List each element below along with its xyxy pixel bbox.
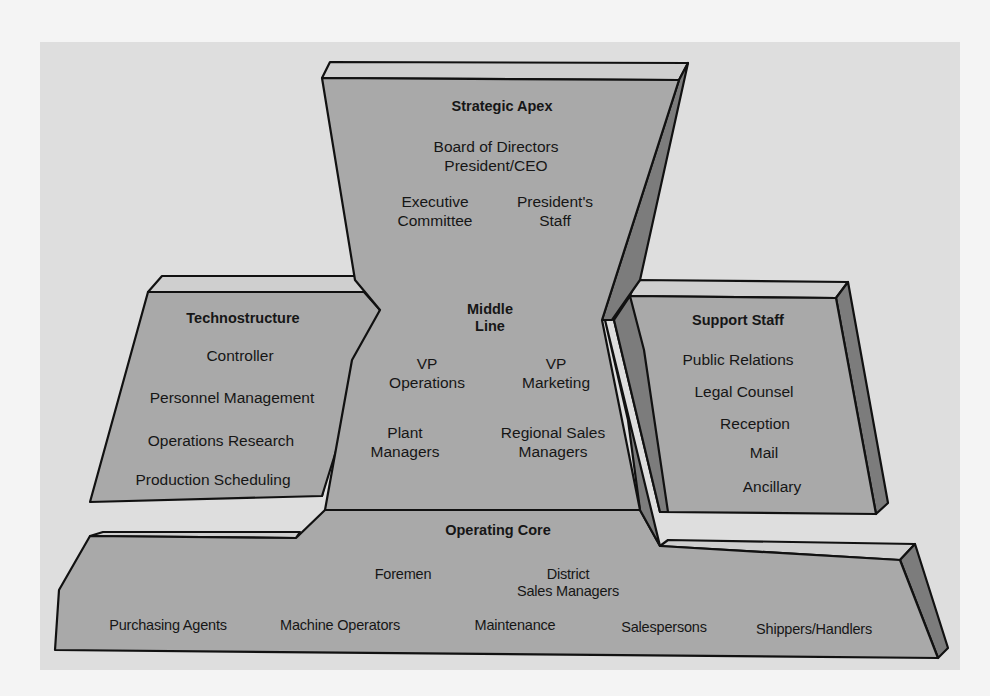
support-staff-item: Legal Counsel (694, 383, 793, 402)
support-staff-item: Public Relations (682, 351, 793, 370)
operating-core-item: Machine Operators (280, 617, 400, 634)
vp-operations-label: VP Operations (389, 355, 465, 392)
operating-core-title: Operating Core (445, 522, 551, 539)
foremen-label: Foremen (375, 566, 432, 583)
organization-structure-diagram: Strategic Apex Board of Directors Presid… (0, 0, 990, 696)
technostructure-item: Production Scheduling (135, 471, 290, 490)
operating-core-item: Salespersons (621, 619, 706, 636)
board-president-label: Board of Directors President/CEO (434, 138, 559, 175)
strategic-apex-title: Strategic Apex (452, 98, 553, 115)
support-staff-item: Ancillary (743, 478, 802, 497)
support-staff-item: Reception (720, 415, 790, 434)
support-staff-item: Mail (750, 444, 778, 463)
technostructure-item: Controller (206, 347, 273, 366)
operating-core-item: Maintenance (475, 617, 556, 634)
operating-core-item: Purchasing Agents (109, 617, 227, 634)
plant-managers-label: Plant Managers (371, 424, 440, 461)
executive-committee-label: Executive Committee (398, 193, 473, 230)
technostructure-item: Operations Research (148, 432, 294, 451)
presidents-staff-label: President's Staff (517, 193, 593, 230)
vp-marketing-label: VP Marketing (522, 355, 590, 392)
support-staff-title: Support Staff (692, 312, 784, 329)
middle-line-title: Middle Line (467, 301, 513, 336)
regional-sales-managers-label: Regional Sales Managers (501, 424, 605, 461)
operating-core-item: Shippers/Handlers (756, 621, 872, 638)
technostructure-title: Technostructure (186, 310, 299, 327)
district-sales-managers-label: District Sales Managers (517, 566, 619, 601)
technostructure-item: Personnel Management (150, 389, 315, 408)
